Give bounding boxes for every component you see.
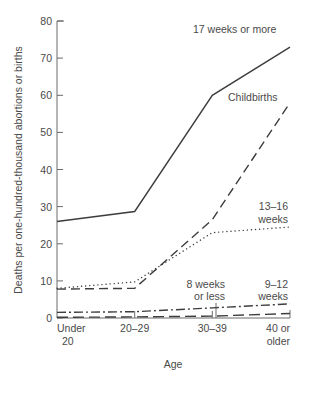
series-label-9-12-weeks-line2: weeks (257, 290, 288, 302)
chart-figure: 80 70 60 50 40 30 20 10 0 Deaths per one… (0, 0, 316, 394)
y-tick-label-70: 70 (40, 52, 52, 64)
series-line-9-12-weeks (57, 314, 290, 318)
x-category-40-older-line2: older (267, 335, 291, 347)
x-category-under-20-line1: Under (57, 322, 86, 334)
y-axis-title: Deaths per one-hundred-thousand abortion… (12, 46, 24, 294)
y-tick-label-10: 10 (40, 275, 52, 287)
y-tick-label-80: 80 (40, 15, 52, 27)
y-tick-label-30: 30 (40, 201, 52, 213)
y-tick-label-50: 50 (40, 126, 52, 138)
x-category-labels: Under 20 20–29 30–39 40 or older (57, 322, 290, 347)
series-line-17-weeks-or-more (57, 47, 290, 221)
series-label-8-weeks-or-less-line2: or less (194, 290, 225, 302)
x-category-20-29: 20–29 (120, 322, 149, 334)
series-line-8-weeks-or-less (57, 304, 290, 313)
axis-spines (57, 21, 290, 318)
series-line-childbirths (57, 103, 290, 289)
x-category-30-39: 30–39 (198, 322, 227, 334)
y-tick-label-20: 20 (40, 238, 52, 250)
series-label-13-16-weeks-line1: 13–16 (259, 200, 288, 212)
line-chart-svg: 80 70 60 50 40 30 20 10 0 Deaths per one… (0, 0, 316, 394)
x-category-40-older-line1: 40 or (266, 322, 290, 334)
x-category-under-20-line2: 20 (62, 335, 74, 347)
y-tick-marks (57, 21, 63, 318)
y-tick-label-40: 40 (40, 164, 52, 176)
series-line-13-16-weeks (57, 227, 290, 288)
series-label-childbirths: Childbirths (228, 91, 278, 103)
series-label-8-weeks-or-less-line1: 8 weeks (186, 278, 225, 290)
series-label-9-12-weeks-line1: 9–12 (265, 278, 289, 290)
x-axis-title: Age (164, 358, 183, 370)
y-tick-label-0: 0 (46, 312, 52, 324)
series-label-17-weeks-or-more: 17 weeks or more (193, 23, 277, 35)
y-tick-labels: 80 70 60 50 40 30 20 10 0 (40, 15, 52, 324)
y-tick-label-60: 60 (40, 89, 52, 101)
series-label-13-16-weeks-line2: weeks (257, 213, 288, 225)
